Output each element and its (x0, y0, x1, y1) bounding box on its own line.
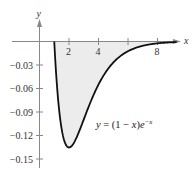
x-axis-label: x (183, 35, 189, 46)
y-tick-label-009: −0.09 (10, 107, 33, 118)
function-plot: y x 2 4 8 −0.03 −0.06 −0.09 −0.12 −0.15 … (0, 0, 196, 170)
y-axis-arrow-icon (37, 19, 42, 27)
y-tick-label-015: −0.15 (10, 154, 33, 165)
y-tick-label-006: −0.06 (10, 83, 33, 94)
equation-label: y = (1 − x)e−x (95, 118, 153, 131)
shaded-area (54, 42, 176, 148)
x-tick-label-4: 4 (96, 46, 101, 57)
x-tick-label-8: 8 (155, 46, 160, 57)
y-tick-label-003: −0.03 (10, 60, 33, 71)
x-tick-label-2: 2 (66, 46, 71, 57)
y-tick-label-012: −0.12 (10, 130, 33, 141)
y-axis-label: y (36, 8, 42, 19)
